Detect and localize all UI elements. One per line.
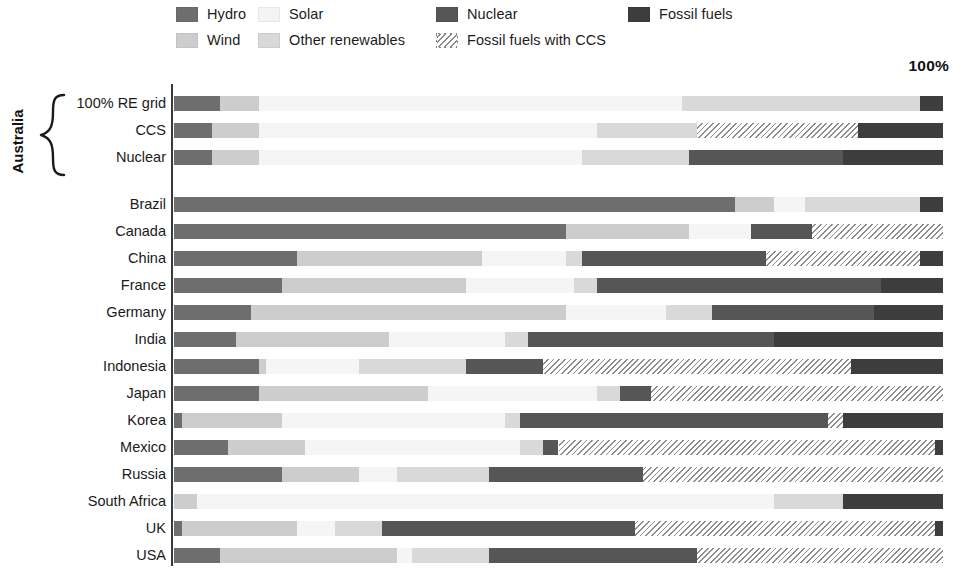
nuclear-swatch (436, 7, 458, 22)
legend-item-wind[interactable]: Wind (176, 30, 240, 50)
y-axis-line (171, 84, 173, 566)
legend-item-other[interactable]: Other renewables (258, 30, 405, 50)
bar-segment-fossil (843, 413, 943, 428)
bar-segment-wind (566, 224, 689, 239)
row-label-china: China (8, 249, 166, 267)
row-label-south-africa: South Africa (8, 492, 166, 510)
bar-row[interactable] (174, 521, 943, 536)
legend-label-ccs: Fossil fuels with CCS (467, 32, 606, 48)
bar-segment-wind (212, 123, 258, 138)
bar-segment-fossil (920, 197, 943, 212)
row-label-indonesia: Indonesia (8, 357, 166, 375)
bar-segment-other (666, 305, 712, 320)
bar-segment-other (412, 548, 489, 563)
bar-segment-nuclear (597, 278, 882, 293)
bar-segment-solar (774, 197, 805, 212)
bar-segment-ccs (766, 251, 920, 266)
bar-row[interactable] (174, 359, 943, 374)
other-swatch (258, 33, 280, 48)
bar-segment-hydro (174, 386, 259, 401)
bar-segment-ccs (559, 440, 936, 455)
bar-segment-wind (735, 197, 773, 212)
row-label-100-re-grid: 100% RE grid (8, 94, 166, 112)
legend-item-nuclear[interactable]: Nuclear (436, 4, 518, 24)
bar-segment-solar (259, 96, 682, 111)
hydro-swatch (176, 7, 198, 22)
bar-row[interactable] (174, 413, 943, 428)
bar-segment-nuclear (620, 386, 651, 401)
bar-segment-nuclear (751, 224, 813, 239)
bar-segment-hydro (174, 278, 282, 293)
row-label-uk: UK (8, 519, 166, 537)
legend-label-fossil: Fossil fuels (659, 6, 733, 22)
bar-segment-other (774, 494, 843, 509)
row-label-brazil: Brazil (8, 195, 166, 213)
bar-row[interactable] (174, 224, 943, 239)
bar-segment-hydro (174, 305, 251, 320)
row-label-germany: Germany (8, 303, 166, 321)
bar-row[interactable] (174, 150, 943, 165)
bar-segment-other (566, 251, 581, 266)
bar-segment-hydro (174, 548, 220, 563)
bar-row[interactable] (174, 251, 943, 266)
bar-segment-other (335, 521, 381, 536)
legend-item-solar[interactable]: Solar (258, 4, 323, 24)
row-label-ccs: CCS (8, 121, 166, 139)
bar-segment-nuclear (528, 332, 774, 347)
bar-segment-solar (359, 467, 397, 482)
row-label-mexico: Mexico (8, 438, 166, 456)
bar-segment-hydro (174, 359, 259, 374)
bar-segment-other (520, 440, 543, 455)
bar-segment-fossil (851, 359, 943, 374)
bar-segment-ccs (635, 521, 935, 536)
row-label-russia: Russia (8, 465, 166, 483)
legend-label-other: Other renewables (289, 32, 405, 48)
bar-row[interactable] (174, 467, 943, 482)
row-labels-column: 100% RE gridCCSNuclearBrazilCanadaChinaF… (0, 84, 166, 566)
bar-segment-wind (259, 386, 428, 401)
bar-row[interactable] (174, 386, 943, 401)
bar-segment-hydro (174, 123, 212, 138)
chart-legend: HydroWindSolarOther renewablesNuclearFos… (176, 4, 776, 56)
bar-segment-wind (220, 548, 397, 563)
bar-row[interactable] (174, 96, 943, 111)
bar-segment-ccs (543, 359, 851, 374)
bar-segment-solar (259, 150, 582, 165)
wind-swatch (176, 33, 198, 48)
bar-row[interactable] (174, 494, 943, 509)
bar-row[interactable] (174, 123, 943, 138)
bar-segment-fossil (843, 150, 943, 165)
bar-row[interactable] (174, 332, 943, 347)
bar-segment-other (682, 96, 920, 111)
legend-item-hydro[interactable]: Hydro (176, 4, 246, 24)
bar-segment-fossil (858, 123, 943, 138)
bar-segment-ccs (697, 548, 943, 563)
bar-segment-hydro (174, 413, 182, 428)
legend-item-ccs[interactable]: Fossil fuels with CCS (436, 30, 606, 50)
legend-item-fossil[interactable]: Fossil fuels (628, 4, 733, 24)
bar-segment-other (805, 197, 920, 212)
bar-segment-fossil (774, 332, 943, 347)
bar-segment-solar (466, 278, 574, 293)
bar-row[interactable] (174, 197, 943, 212)
bar-segment-fossil (881, 278, 943, 293)
plot-area (174, 84, 943, 566)
bar-segment-solar (689, 224, 751, 239)
bar-row[interactable] (174, 548, 943, 563)
bar-row[interactable] (174, 440, 943, 455)
bar-segment-other (505, 332, 528, 347)
bar-row[interactable] (174, 278, 943, 293)
stacked-bar-chart: HydroWindSolarOther renewablesNuclearFos… (0, 0, 963, 568)
bar-segment-nuclear (543, 440, 558, 455)
bar-segment-ccs (828, 413, 843, 428)
bar-segment-wind (282, 278, 467, 293)
row-label-france: France (8, 276, 166, 294)
bar-segment-wind (259, 359, 267, 374)
bar-segment-hydro (174, 251, 297, 266)
bar-segment-solar (282, 413, 505, 428)
bar-segment-hydro (174, 467, 282, 482)
ccs-swatch (436, 33, 458, 48)
bar-segment-ccs (697, 123, 858, 138)
bar-segment-wind (251, 305, 566, 320)
bar-row[interactable] (174, 305, 943, 320)
